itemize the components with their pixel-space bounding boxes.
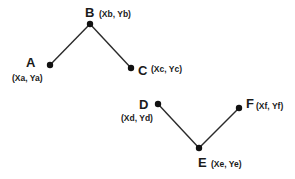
point-b-coord: (Xb, Yb) bbox=[99, 9, 131, 19]
point-a-coord: (Xa, Ya) bbox=[12, 73, 43, 83]
point-d-coord: (Xd, Yd) bbox=[121, 113, 153, 123]
point-d-label: D bbox=[139, 97, 148, 112]
point-d-marker bbox=[155, 101, 161, 107]
point-f-marker bbox=[236, 105, 242, 111]
point-a-marker bbox=[47, 62, 53, 68]
point-c-marker bbox=[128, 65, 134, 71]
polyline-diagram: A (Xa, Ya) B (Xb, Yb) C (Xc, Yc) D (Xd, … bbox=[0, 0, 295, 179]
point-c-label: C bbox=[138, 63, 148, 78]
point-e-marker bbox=[196, 145, 202, 151]
point-e-label: E bbox=[198, 155, 207, 170]
point-f-coord: (Xf, Yf) bbox=[256, 101, 283, 111]
point-f-label: F bbox=[246, 96, 254, 111]
point-b-label: B bbox=[85, 5, 94, 20]
segment-a-b bbox=[50, 24, 90, 65]
diagram-canvas: A (Xa, Ya) B (Xb, Yb) C (Xc, Yc) D (Xd, … bbox=[0, 0, 295, 179]
point-b-marker bbox=[87, 21, 93, 27]
segment-e-f bbox=[199, 108, 239, 148]
point-a-label: A bbox=[26, 55, 36, 70]
point-e-coord: (Xe, Ye) bbox=[211, 159, 242, 169]
point-c-coord: (Xc, Yc) bbox=[151, 64, 182, 74]
segment-b-c bbox=[90, 24, 131, 68]
segment-d-e bbox=[158, 104, 199, 148]
